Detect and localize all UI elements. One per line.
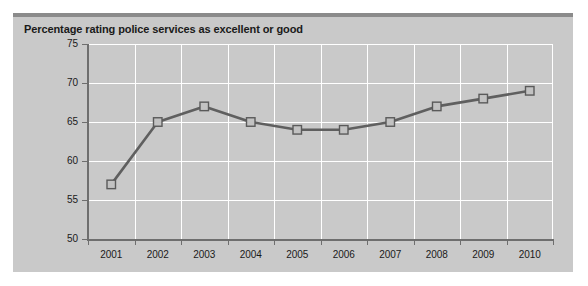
y-axis-tick xyxy=(82,122,88,123)
chart-figure: Percentage rating police services as exc… xyxy=(0,0,588,286)
x-axis-tick xyxy=(88,240,89,245)
y-axis-tick-label: 60 xyxy=(42,155,78,166)
gridline-vertical xyxy=(367,44,368,239)
x-axis-tick-label: 2006 xyxy=(322,249,366,260)
gridline-vertical xyxy=(507,44,508,239)
gridline-vertical xyxy=(228,44,229,239)
y-axis-tick-label: 70 xyxy=(42,77,78,88)
y-axis-tick xyxy=(82,161,88,162)
plot-right-edge xyxy=(552,44,553,239)
x-axis-tick xyxy=(321,240,322,245)
y-axis-tick xyxy=(82,44,88,45)
chart-title: Percentage rating police services as exc… xyxy=(24,23,303,35)
x-axis-tick-label: 2004 xyxy=(229,249,273,260)
gridline-vertical xyxy=(181,44,182,239)
plot-area xyxy=(88,44,553,239)
x-axis-tick xyxy=(553,240,554,245)
y-axis-tick xyxy=(82,83,88,84)
x-axis-tick-label: 2008 xyxy=(415,249,459,260)
x-axis-tick-label: 2007 xyxy=(368,249,412,260)
x-axis-tick-label: 2010 xyxy=(508,249,552,260)
gridline-vertical xyxy=(460,44,461,239)
y-axis-line xyxy=(87,44,89,240)
x-axis-tick xyxy=(507,240,508,245)
panel-top-rule xyxy=(13,13,573,17)
y-axis-tick-label: 50 xyxy=(42,233,78,244)
y-axis-tick-label: 65 xyxy=(42,116,78,127)
y-axis-tick xyxy=(82,200,88,201)
gridline-vertical xyxy=(414,44,415,239)
gridline-vertical xyxy=(135,44,136,239)
x-axis-tick xyxy=(274,240,275,245)
x-axis-tick xyxy=(460,240,461,245)
x-axis-tick xyxy=(414,240,415,245)
x-axis-tick xyxy=(135,240,136,245)
gridline-vertical xyxy=(274,44,275,239)
x-axis-tick-label: 2009 xyxy=(461,249,505,260)
y-axis-tick-label: 75 xyxy=(42,38,78,49)
x-axis-tick-label: 2001 xyxy=(89,249,133,260)
x-axis-tick-label: 2003 xyxy=(182,249,226,260)
gridline-vertical xyxy=(321,44,322,239)
x-axis-tick-label: 2002 xyxy=(136,249,180,260)
x-axis-tick-label: 2005 xyxy=(275,249,319,260)
x-axis-tick xyxy=(228,240,229,245)
y-axis-tick-label: 55 xyxy=(42,194,78,205)
x-axis-tick xyxy=(181,240,182,245)
x-axis-tick xyxy=(367,240,368,245)
